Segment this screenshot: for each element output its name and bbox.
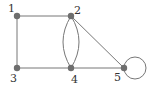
node-label-5: 5 — [114, 71, 121, 84]
node-label-4: 4 — [71, 73, 78, 86]
graph-diagram: 12345 — [0, 0, 152, 86]
nodes-layer — [14, 13, 127, 71]
edge-2-4-6 — [71, 16, 79, 68]
node-label-1: 1 — [8, 2, 15, 15]
labels-layer: 12345 — [8, 2, 121, 86]
node-5 — [121, 65, 127, 71]
edge-2-4-5 — [63, 16, 71, 68]
node-3 — [14, 65, 20, 71]
node-label-2: 2 — [74, 4, 81, 17]
node-label-3: 3 — [10, 72, 17, 85]
edge-5-5 — [124, 57, 146, 79]
node-4 — [68, 65, 74, 71]
